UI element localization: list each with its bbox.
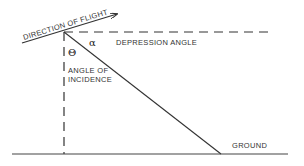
alpha-symbol: α xyxy=(89,37,96,48)
direction-of-flight-label: DIRECTION OF FLIGHT xyxy=(22,7,109,41)
flight-geometry-diagram: DIRECTION OF FLIGHT α Θ DEPRESSION ANGLE… xyxy=(0,0,304,166)
theta-symbol: Θ xyxy=(68,47,76,58)
ground-label: GROUND xyxy=(232,141,267,150)
angle-of-incidence-label-line1: ANGLE OF xyxy=(68,66,108,75)
angle-of-incidence-label-line2: INCIDENCE xyxy=(68,75,112,84)
depression-angle-label: DEPRESSION ANGLE xyxy=(116,38,197,47)
line-of-sight xyxy=(64,32,221,154)
